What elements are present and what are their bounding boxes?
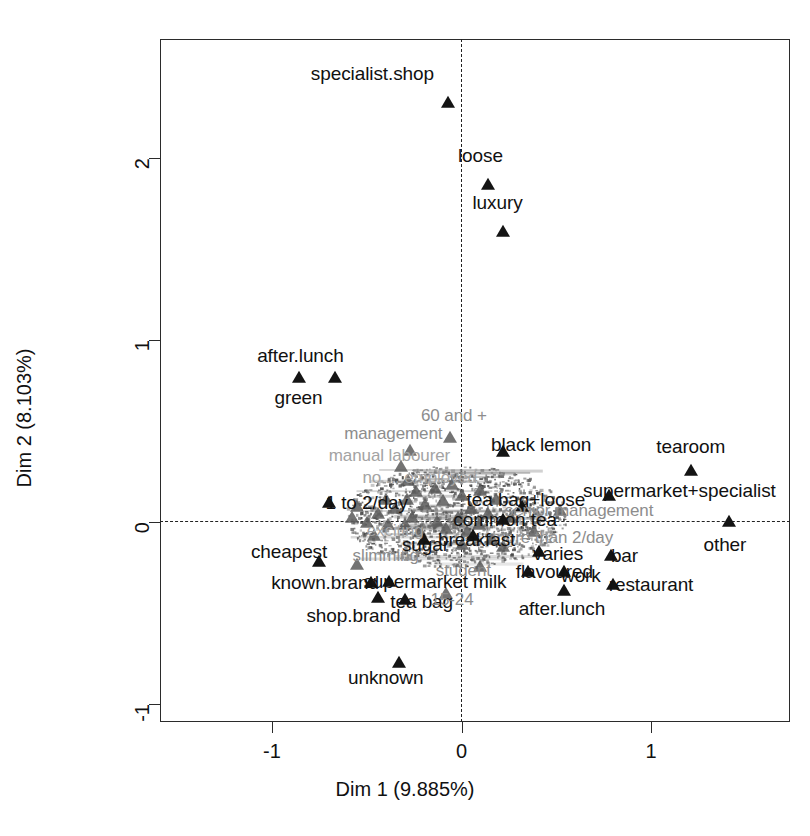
x-axis-title: Dim 1 (9.885%) xyxy=(0,778,810,801)
point-label: black lemon xyxy=(491,434,591,456)
x-tick-label: 1 xyxy=(645,740,656,763)
y-tick-label: 0 xyxy=(131,522,154,533)
x-tick-label: -1 xyxy=(263,740,281,763)
point-label: tearoom xyxy=(656,436,725,458)
plot-frame xyxy=(160,39,790,722)
point-label: green xyxy=(274,387,322,409)
point-label: supermarket+specialist xyxy=(583,480,776,502)
y-axis-title: Dim 2 (8.103%) xyxy=(13,349,36,488)
point-label: restaurant xyxy=(609,574,694,596)
data-point-marker xyxy=(481,178,495,190)
point-label: 1 to 2/day xyxy=(326,492,408,514)
point-label: loose xyxy=(458,145,503,167)
point-label: 15-24 xyxy=(431,590,474,610)
point-label: exciting xyxy=(367,521,424,541)
point-label: breakfast xyxy=(438,529,515,551)
y-tick-label: 1 xyxy=(131,340,154,351)
point-label: other xyxy=(703,534,746,556)
point-label: manual labourer xyxy=(329,446,450,466)
y-tick-label: 2 xyxy=(131,158,154,169)
data-point-marker xyxy=(443,431,457,443)
data-point-marker xyxy=(292,371,306,383)
vertical-reference-line xyxy=(461,39,462,722)
x-tick xyxy=(462,722,463,733)
point-label: slimming xyxy=(353,546,419,566)
x-tick xyxy=(272,722,273,733)
data-point-marker xyxy=(496,225,510,237)
point-label: cheapest xyxy=(251,541,327,563)
point-label: management xyxy=(344,424,442,444)
y-tick-label: -1 xyxy=(131,704,154,722)
point-label: specialist.shop xyxy=(311,63,434,85)
data-point-marker xyxy=(430,514,444,526)
data-point-marker xyxy=(418,498,432,510)
data-point-marker xyxy=(722,514,736,526)
point-label: luxury xyxy=(472,192,522,214)
data-point-marker xyxy=(328,371,342,383)
x-tick xyxy=(651,722,652,733)
point-label: after.lunch xyxy=(257,345,344,367)
point-label: 60 and + xyxy=(421,406,487,426)
x-tick-label: 0 xyxy=(456,740,467,763)
point-label: no ... employed xyxy=(362,468,477,488)
point-label: after.lunch xyxy=(519,598,606,620)
data-point-marker xyxy=(684,463,698,475)
point-label: unknown xyxy=(348,667,423,689)
data-point-marker xyxy=(441,96,455,108)
point-label: work xyxy=(561,565,601,587)
point-label: bar xyxy=(611,545,638,567)
point-label: shop.brand xyxy=(306,605,400,627)
data-point-marker xyxy=(436,494,450,506)
mca-factor-map: -1012-101 specialist.shoplooseluxuryafte… xyxy=(0,0,810,836)
